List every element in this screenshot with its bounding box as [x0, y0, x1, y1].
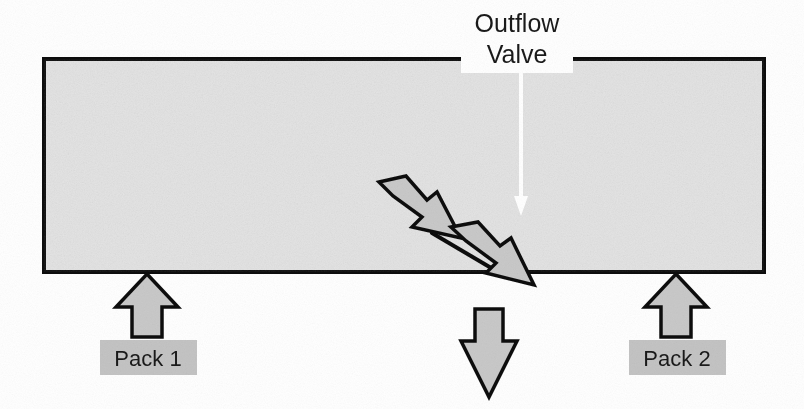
- pack2-arrow-shape: [645, 274, 707, 337]
- airflow-schematic: Outflow Valve Pack 1: [0, 0, 804, 409]
- outflow-valve-label: Outflow Valve: [461, 4, 573, 73]
- pack2-label-text: Pack 2: [643, 346, 710, 371]
- pack1-label-text: Pack 1: [114, 346, 181, 371]
- outflow-arrow-shape: [461, 309, 517, 397]
- pack1-label: Pack 1: [100, 340, 197, 375]
- valve-label-line1: Outflow: [475, 9, 561, 37]
- pack1-arrow-shape: [116, 274, 178, 337]
- figure-canvas: Outflow Valve Pack 1: [0, 0, 804, 409]
- valve-label-line2: Valve: [487, 40, 548, 68]
- tank-texture: [44, 59, 764, 272]
- pack2-label: Pack 2: [629, 340, 726, 375]
- outflow-downward-arrow-icon: [461, 309, 517, 397]
- pack1-inflow-arrow-icon: [116, 274, 178, 337]
- pack2-inflow-arrow-icon: [645, 274, 707, 337]
